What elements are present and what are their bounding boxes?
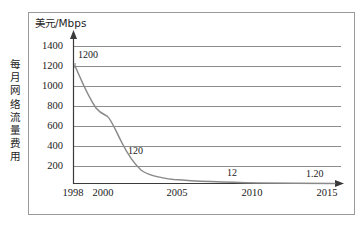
vertical-axis-char: 每 [6, 58, 24, 71]
cost-curve [75, 66, 335, 184]
plot-area [29, 13, 356, 216]
vertical-axis-char: 网 [6, 84, 24, 97]
vertical-axis-char: 流 [6, 111, 24, 124]
gridlines [73, 47, 341, 167]
vertical-axis-char: 费 [6, 137, 24, 150]
vertical-axis-char: 月 [6, 71, 24, 84]
chart-figure: 每 月 网 络 流 量 费 用 美元/Mbps 1400 1200 1000 8… [0, 0, 363, 230]
vertical-axis-label: 每 月 网 络 流 量 费 用 [6, 58, 24, 164]
vertical-axis-char: 用 [6, 150, 24, 163]
chart-frame: 美元/Mbps 1400 1200 1000 800 600 400 200 1… [28, 12, 355, 215]
vertical-axis-char: 络 [6, 98, 24, 111]
x-axis-arrowhead [335, 180, 344, 187]
y-axis-arrowhead [70, 30, 77, 39]
vertical-axis-char: 量 [6, 124, 24, 137]
